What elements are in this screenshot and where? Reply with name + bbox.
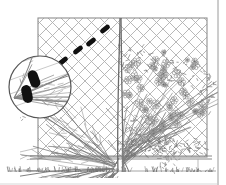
illustration-canvas <box>0 0 226 185</box>
trellis-illustration-figure: Fan-trained climbing plant on lattice tr… <box>0 0 226 185</box>
